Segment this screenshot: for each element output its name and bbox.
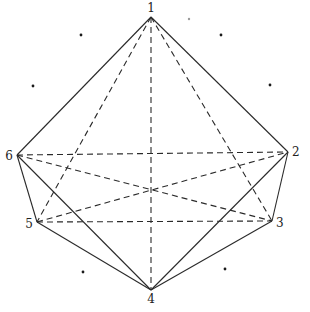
dashed-edges (17, 17, 288, 290)
solid-edge-1-6 (17, 17, 151, 155)
grid-dot (224, 268, 227, 271)
solid-edge-2-3 (272, 152, 288, 221)
octahedron-diagram: 123456 (0, 0, 310, 312)
grid-dots (32, 18, 272, 274)
grid-dot (188, 18, 190, 20)
vertex-label-5: 5 (25, 217, 33, 231)
dashed-edge-6-3 (17, 155, 272, 221)
vertex-label-2: 2 (292, 145, 300, 159)
dashed-edge-6-2 (17, 152, 288, 155)
solid-edge-3-4 (151, 221, 272, 290)
dashed-edge-5-2 (37, 152, 288, 222)
dashed-edge-5-3 (37, 221, 272, 222)
vertex-label-6: 6 (5, 149, 13, 163)
grid-dot (80, 34, 83, 37)
vertex-label-1: 1 (147, 1, 155, 15)
grid-dot (32, 85, 35, 88)
grid-dot (269, 84, 272, 87)
vertex-label-4: 4 (147, 292, 155, 306)
dashed-edge-1-5 (37, 17, 151, 222)
grid-dot (82, 271, 85, 274)
grid-dot (220, 34, 223, 37)
vertex-label-3: 3 (276, 216, 284, 230)
